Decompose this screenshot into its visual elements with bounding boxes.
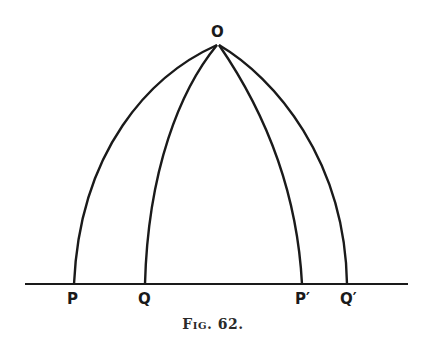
point-label-p-prime: P′ bbox=[295, 292, 310, 307]
arc-o-q-prime bbox=[219, 45, 347, 284]
geometry-diagram bbox=[0, 0, 426, 362]
point-label-q: Q bbox=[138, 292, 151, 307]
arc-o-q bbox=[145, 45, 217, 284]
figure-62: O P Q P′ Q′ Fig. 62. bbox=[0, 0, 426, 362]
arc-o-p bbox=[74, 45, 217, 284]
point-label-q-prime: Q′ bbox=[340, 292, 357, 307]
arc-o-p-prime bbox=[219, 45, 302, 284]
apex-label-o: O bbox=[211, 25, 224, 40]
point-label-p: P bbox=[67, 292, 78, 307]
figure-caption: Fig. 62. bbox=[0, 316, 426, 332]
